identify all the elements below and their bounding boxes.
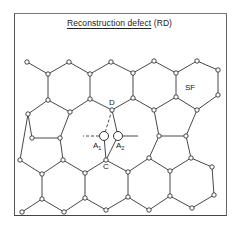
- atom-node: [61, 158, 65, 162]
- bond: [42, 199, 64, 212]
- atom-node: [174, 95, 178, 99]
- reconstruction-defect-diagram: Reconstruction defect (RD) SF D C A1 A2: [0, 0, 239, 226]
- atom-node: [46, 72, 50, 76]
- atom-node: [147, 156, 151, 160]
- bond: [176, 97, 197, 110]
- bond: [192, 195, 214, 208]
- bond: [186, 136, 191, 158]
- bond: [70, 99, 90, 112]
- bond: [154, 97, 176, 110]
- defect-atom-a2: [114, 132, 123, 141]
- atomic-lattice: [0, 0, 239, 226]
- bond: [176, 61, 197, 73]
- atom-node: [189, 156, 193, 160]
- atom-node: [46, 98, 50, 102]
- atom-node: [210, 165, 214, 169]
- atom-node: [88, 72, 92, 76]
- atom-node: [109, 60, 113, 64]
- bond: [42, 160, 63, 174]
- bond: [133, 98, 154, 110]
- atom-node: [216, 68, 220, 72]
- bond: [149, 136, 159, 158]
- atom-node: [83, 171, 87, 175]
- atom-node: [190, 206, 194, 210]
- stacking-fault-label: SF: [185, 84, 195, 92]
- bond: [133, 61, 154, 73]
- atom-node: [126, 195, 130, 199]
- bond: [48, 62, 69, 74]
- atom-node: [195, 59, 199, 63]
- atom-node: [152, 59, 156, 63]
- atom-node: [110, 108, 114, 112]
- atom-node: [58, 136, 62, 140]
- bond: [197, 95, 218, 110]
- atom-node: [40, 172, 44, 176]
- atom-node: [104, 208, 108, 212]
- atom-node: [25, 60, 29, 64]
- bond: [191, 158, 212, 167]
- atom-node: [18, 158, 22, 162]
- bond: [128, 197, 149, 210]
- atom-node: [20, 210, 24, 214]
- bond: [106, 197, 128, 210]
- atom-node: [147, 208, 151, 212]
- bond: [170, 158, 191, 171]
- bond: [149, 196, 170, 210]
- bond: [20, 114, 28, 160]
- bond: [154, 61, 176, 73]
- bond: [149, 158, 170, 171]
- label-d: D: [109, 99, 115, 107]
- bond: [90, 62, 111, 74]
- bond: [128, 158, 149, 172]
- bond: [60, 112, 70, 138]
- bond: [60, 138, 63, 160]
- atom-node: [195, 108, 199, 112]
- atom-node: [68, 110, 72, 114]
- label-a2-sub: 2: [121, 145, 124, 151]
- atom-node: [40, 197, 44, 201]
- bond: [28, 100, 48, 114]
- label-a1-sub: 1: [98, 145, 101, 151]
- bond: [69, 62, 90, 74]
- label-c: C: [103, 163, 109, 171]
- atom-node: [168, 194, 172, 198]
- atom-node: [88, 97, 92, 101]
- atom-node: [62, 210, 66, 214]
- atom-node: [67, 60, 71, 64]
- bond: [22, 199, 42, 212]
- bond: [186, 110, 197, 136]
- bond: [48, 100, 70, 112]
- atom-node: [212, 193, 216, 197]
- bond: [212, 167, 214, 195]
- atom-node: [83, 196, 87, 200]
- bond: [154, 110, 159, 136]
- bond: [106, 160, 128, 172]
- atom-node: [152, 108, 156, 112]
- bond: [28, 114, 32, 138]
- atom-node: [131, 96, 135, 100]
- defect-atom-a1: [100, 132, 109, 141]
- bond: [20, 160, 42, 174]
- atom-node: [216, 93, 220, 97]
- atom-node: [131, 71, 135, 75]
- bond: [63, 160, 85, 173]
- atom-node: [174, 71, 178, 75]
- bond: [197, 61, 218, 70]
- bond: [27, 62, 48, 74]
- atom-node: [30, 136, 34, 140]
- atom-node: [26, 112, 30, 116]
- bond: [111, 62, 133, 73]
- atom-node: [126, 170, 130, 174]
- label-a2: A2: [116, 142, 124, 152]
- atom-node: [157, 134, 161, 138]
- atom-node: [168, 169, 172, 173]
- bond: [112, 98, 133, 110]
- bond: [170, 196, 192, 208]
- bond: [85, 198, 106, 210]
- atom-node: [184, 134, 188, 138]
- label-a1: A1: [93, 142, 101, 152]
- bond: [64, 198, 85, 212]
